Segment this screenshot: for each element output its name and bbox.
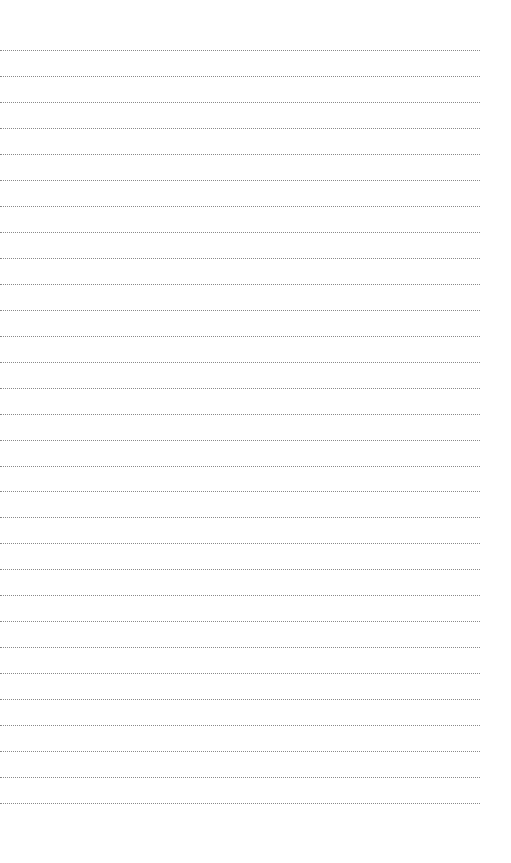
dotted-writing-line <box>0 102 480 103</box>
dotted-writing-line <box>0 440 480 441</box>
dotted-writing-line <box>0 725 480 726</box>
dotted-writing-line <box>0 803 480 804</box>
dotted-writing-line <box>0 751 480 752</box>
dotted-writing-line <box>0 388 480 389</box>
dotted-writing-line <box>0 621 480 622</box>
dotted-writing-line <box>0 777 480 778</box>
dotted-writing-line <box>0 258 480 259</box>
dotted-writing-line <box>0 284 480 285</box>
dotted-writing-line <box>0 232 480 233</box>
dotted-writing-line <box>0 647 480 648</box>
dotted-writing-line <box>0 310 480 311</box>
dotted-writing-line <box>0 466 480 467</box>
dotted-writing-line <box>0 336 480 337</box>
lined-paper-sheet <box>0 0 511 863</box>
dotted-writing-line <box>0 206 480 207</box>
dotted-writing-line <box>0 128 480 129</box>
dotted-writing-line <box>0 180 480 181</box>
dotted-writing-line <box>0 491 480 492</box>
dotted-writing-line <box>0 50 480 51</box>
dotted-writing-line <box>0 699 480 700</box>
dotted-writing-line <box>0 595 480 596</box>
dotted-writing-line <box>0 76 480 77</box>
dotted-writing-line <box>0 517 480 518</box>
dotted-writing-line <box>0 543 480 544</box>
dotted-writing-line <box>0 673 480 674</box>
dotted-writing-line <box>0 414 480 415</box>
dotted-writing-line <box>0 154 480 155</box>
dotted-writing-line <box>0 362 480 363</box>
dotted-writing-line <box>0 569 480 570</box>
